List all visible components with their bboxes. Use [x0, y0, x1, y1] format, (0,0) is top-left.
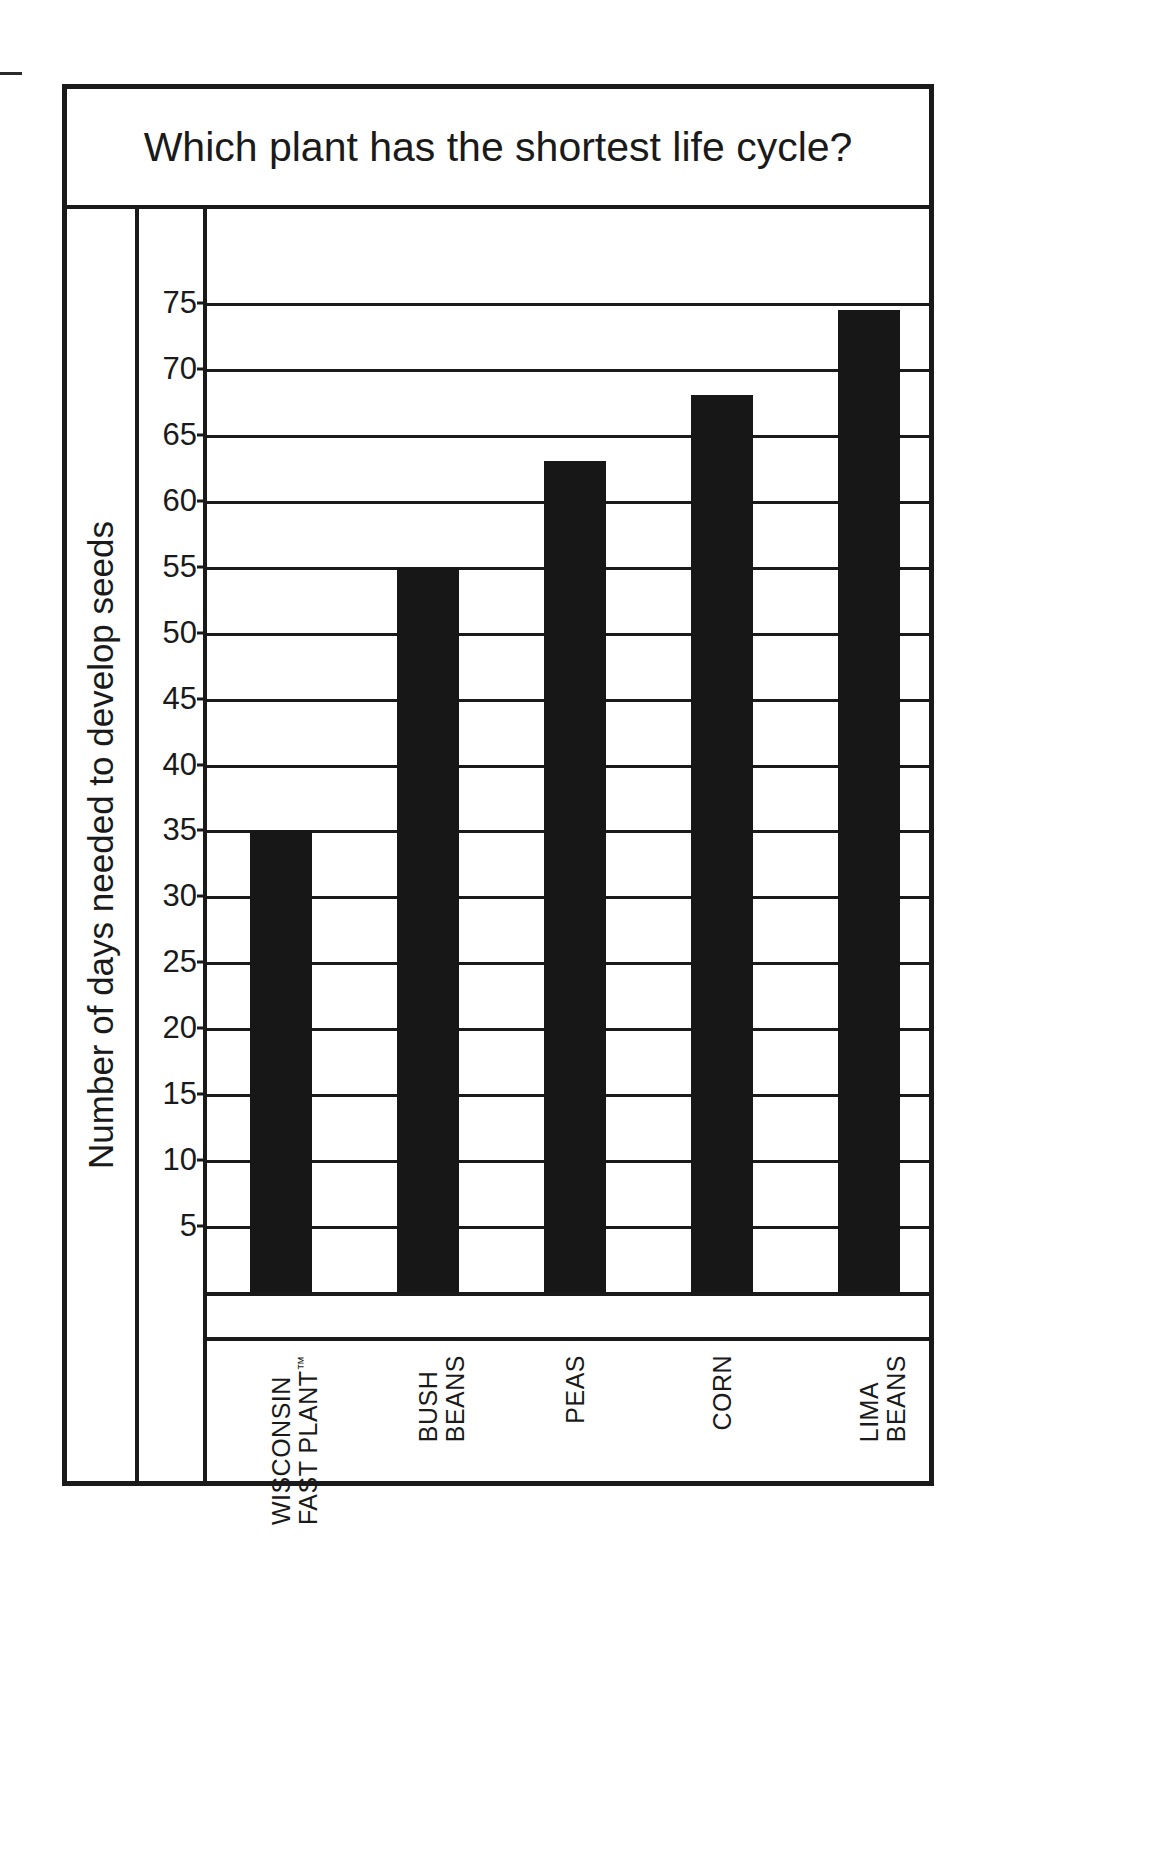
bar — [544, 461, 606, 1292]
x-axis-category-label: CORN — [709, 1355, 736, 1431]
y-axis-tick-label: 20 — [163, 1010, 197, 1046]
y-axis-title-column: Number of days needed to develop seeds — [67, 209, 139, 1481]
y-axis-tick-label: 40 — [163, 747, 197, 783]
gridline — [207, 435, 929, 438]
chart-title-band: Which plant has the shortest life cycle? — [67, 89, 929, 209]
plot-area: WISCONSINFAST PLANT™BUSHBEANSPEASCORNLIM… — [203, 209, 929, 1481]
y-axis-tick-label: 25 — [163, 944, 197, 980]
x-axis-category-label: PEAS — [562, 1355, 589, 1424]
bar — [838, 310, 900, 1292]
axis-baseline — [207, 1292, 929, 1296]
y-axis-tick-label: 10 — [163, 1142, 197, 1178]
bar — [250, 830, 312, 1292]
y-axis-tick-label: 15 — [163, 1076, 197, 1112]
y-axis-tick-label: 45 — [163, 681, 197, 717]
bar — [691, 395, 753, 1292]
y-axis-tick-label: 55 — [163, 549, 197, 585]
x-axis-category-label: LIMABEANS — [856, 1355, 910, 1442]
y-axis-tick-label: 75 — [163, 285, 197, 321]
chart-body: Number of days needed to develop seeds 7… — [67, 209, 929, 1481]
y-axis-tick-label: 60 — [163, 483, 197, 519]
y-axis-tick-label: 5 — [180, 1208, 197, 1244]
y-axis-tick-labels: 75706560555045403530252015105 — [139, 209, 203, 1481]
chart-figure-frame: Which plant has the shortest life cycle?… — [62, 84, 934, 1486]
gridline — [207, 303, 929, 306]
y-axis-tick-label: 65 — [163, 417, 197, 453]
plot-inner — [207, 237, 929, 1292]
y-axis-title: Number of days needed to develop seeds — [81, 521, 121, 1169]
chart-title: Which plant has the shortest life cycle? — [144, 124, 853, 171]
page-edge-tick-mark — [0, 72, 22, 75]
bar — [397, 567, 459, 1292]
category-label-strip: WISCONSINFAST PLANT™BUSHBEANSPEASCORNLIM… — [207, 1337, 929, 1591]
x-axis-category-label: BUSHBEANS — [415, 1355, 469, 1442]
y-axis-tick-label: 30 — [163, 878, 197, 914]
gridline — [207, 369, 929, 372]
y-axis-tick-label: 70 — [163, 351, 197, 387]
y-axis-tick-label: 50 — [163, 615, 197, 651]
y-axis-tick-label: 35 — [163, 812, 197, 848]
x-axis-category-label: WISCONSINFAST PLANT™ — [268, 1355, 322, 1525]
